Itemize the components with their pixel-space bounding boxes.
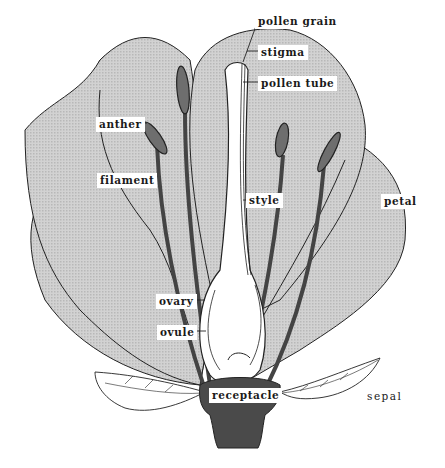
label-pollen-tube: pollen tube — [258, 76, 337, 91]
label-pollen-grain: pollen grain — [255, 14, 340, 29]
label-filament: filament — [97, 173, 157, 188]
label-ovule: ovule — [157, 325, 197, 340]
label-sepal: sepal — [364, 389, 405, 404]
label-stigma: stigma — [258, 45, 308, 60]
label-ovary: ovary — [156, 294, 197, 309]
label-style: style — [246, 193, 283, 208]
label-anther: anther — [96, 117, 145, 132]
label-receptacle: receptacle — [209, 388, 282, 403]
label-petal: petal — [381, 194, 420, 209]
